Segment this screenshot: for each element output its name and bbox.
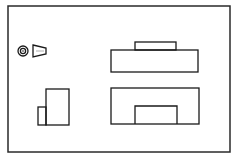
front-view [111, 88, 199, 124]
front-view-notch [135, 106, 177, 124]
side-view-tall-rect [46, 89, 69, 125]
projection-symbol-icon [18, 45, 46, 57]
side-view-step-rect [38, 107, 46, 125]
drawing-canvas: Drawing frame Top view Front view Side v… [0, 0, 235, 158]
top-view-base-rect [111, 50, 198, 72]
side-view [38, 89, 69, 125]
drawing-svg [0, 0, 235, 158]
top-view-raised-rect [135, 42, 176, 50]
symbol-center-dot [22, 50, 24, 52]
top-view [111, 42, 198, 72]
drawing-frame [8, 6, 230, 152]
